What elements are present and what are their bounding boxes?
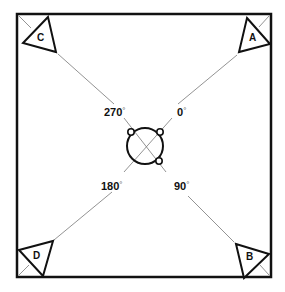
angle-label-90: 90° (174, 180, 189, 192)
speaker-d: D (19, 241, 53, 276)
mount-tab-top-right (157, 129, 163, 135)
corner-label-a: A (249, 32, 256, 43)
speaker-b: B (236, 244, 269, 278)
speaker-a: A (239, 18, 270, 52)
mount-tab-top-left (128, 129, 134, 135)
corner-label-d: D (33, 250, 40, 261)
angle-label-0: 0° (177, 106, 186, 118)
angle-label-270: 270° (104, 106, 126, 118)
placement-diagram: 270° 0° 180° 90° C A D B (0, 0, 285, 292)
angle-label-180: 180° (101, 180, 123, 192)
center-unit (127, 128, 163, 164)
guide-lines (19, 16, 269, 275)
mount-tab-bottom-right (156, 158, 162, 164)
speaker-c: C (23, 17, 56, 52)
corner-label-b: B (246, 251, 253, 262)
corner-label-c: C (37, 32, 44, 43)
room-boundary (17, 14, 271, 277)
